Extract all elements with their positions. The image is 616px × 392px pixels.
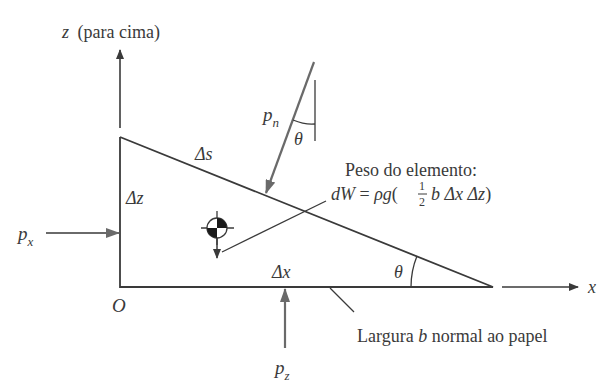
width-note: Largura b normal ao papel [357,326,548,346]
svg-text:z (para cima): z (para cima) [61,22,160,43]
z-axis: z (para cima) [61,22,160,128]
weight-title: Peso do elemento: [345,160,477,180]
z-axis-note: (para cima) [78,22,160,43]
weight-leader-line [222,201,326,252]
x-axis-label: x [587,277,596,297]
z-axis-label: z [61,22,69,42]
weight-formula-rest: b Δx Δz) [431,184,491,205]
width-leader-line [330,288,354,312]
theta-label-pn: θ [294,129,303,149]
fluid-wedge-diagram: z (para cima) x O Δs Δz Δx θ px pz pn θ [0,0,616,392]
pz-label: pz [273,357,290,383]
theta-label-vertex: θ [394,262,403,282]
weight-formula: dW = ρg( [331,184,398,205]
origin-label: O [112,295,126,316]
weight-fraction-den: 2 [419,195,425,209]
delta-s-label: Δs [194,144,213,164]
pn-label: pn [261,104,279,130]
delta-z-label: Δz [125,188,144,208]
x-axis: x [502,277,596,297]
theta-arc-vertex [411,256,417,287]
center-of-gravity-icon [201,211,234,258]
weight-fraction-num: 1 [419,179,425,193]
px-label: px [16,223,34,249]
delta-x-label: Δx [271,262,291,282]
